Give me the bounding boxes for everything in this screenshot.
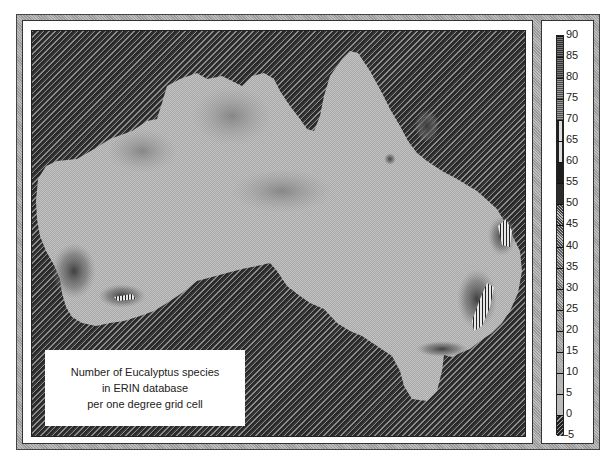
legend-tick-label: 15 xyxy=(566,345,578,356)
caption-line-1: Number of Eucalyptus species xyxy=(45,364,245,380)
legend-color-bar xyxy=(556,35,564,435)
legend-band xyxy=(557,331,563,352)
legend-tick-label: 10 xyxy=(566,366,578,377)
legend-tick-label: 70 xyxy=(566,113,578,124)
hotspot-north-queensland-spot xyxy=(384,153,396,165)
legend-tick-label: 65 xyxy=(566,134,578,145)
legend-tick-label: 30 xyxy=(566,282,578,293)
legend-band xyxy=(557,310,563,331)
legend-band xyxy=(557,268,563,289)
legend-band xyxy=(557,162,563,183)
legend-band xyxy=(557,289,563,310)
legend-band xyxy=(557,204,563,225)
hotspot-cape-york xyxy=(415,110,439,142)
legend-band xyxy=(557,141,563,162)
legend-tick-label: –5 xyxy=(562,429,574,440)
caption-line-2: in ERIN database xyxy=(45,380,245,396)
legend-tick-label: 55 xyxy=(566,176,578,187)
legend-band xyxy=(557,225,563,246)
legend-tick-label: 25 xyxy=(566,303,578,314)
legend-tick-label: 50 xyxy=(566,197,578,208)
legend-band xyxy=(557,247,563,268)
legend-band xyxy=(557,99,563,120)
tone-region-top-end xyxy=(192,86,272,146)
legend-tick-label: 40 xyxy=(566,240,578,251)
tone-region-central xyxy=(232,169,332,213)
legend-tick-label: 60 xyxy=(566,155,578,166)
legend-band xyxy=(557,373,563,394)
legend-band xyxy=(557,394,563,415)
legend-tick-label: 75 xyxy=(566,92,578,103)
caption-box: Number of Eucalyptus species in ERIN dat… xyxy=(45,350,245,426)
legend-tick-label: 45 xyxy=(566,218,578,229)
legend-tick-label: 35 xyxy=(566,261,578,272)
legend-band xyxy=(557,352,563,373)
legend-band xyxy=(557,120,563,141)
legend-panel xyxy=(541,20,594,444)
legend-tick-label: 0 xyxy=(566,408,572,419)
legend-band xyxy=(557,36,563,57)
legend-band xyxy=(557,78,563,99)
legend-tick-label: 85 xyxy=(566,50,578,61)
legend-tick-label: 80 xyxy=(566,71,578,82)
legend-band xyxy=(557,183,563,204)
tone-region-kimberley xyxy=(107,129,177,173)
caption-line-3: per one degree grid cell xyxy=(45,396,245,412)
legend-tick-label: 5 xyxy=(566,387,572,398)
legend-band xyxy=(557,57,563,78)
hotspot-victoria-highlands xyxy=(416,341,468,357)
legend-tick-label: 20 xyxy=(566,324,578,335)
hotspot-south-west-wa xyxy=(52,243,96,299)
legend-tick-label: 90 xyxy=(566,29,578,40)
